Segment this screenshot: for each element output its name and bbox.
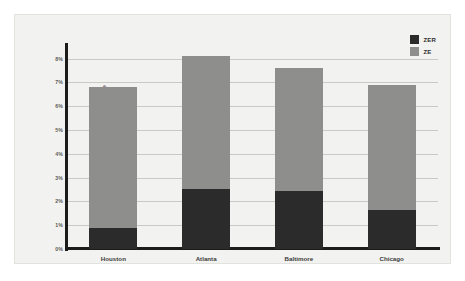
y-axis-title-wrapper: Incremental Cost Compared to Code Baseli…: [45, 49, 59, 249]
bar-group-baltimore[interactable]: [275, 49, 323, 249]
x-tick-houston: Houston: [101, 255, 126, 262]
bar-segment-zer-chicago[interactable]: [368, 210, 416, 249]
legend-item-ze[interactable]: ZE: [410, 47, 436, 56]
bar-group-chicago[interactable]: [368, 49, 416, 249]
bar-segment-zer-baltimore[interactable]: [275, 191, 323, 249]
bar-segment-ze-chicago[interactable]: [368, 85, 416, 210]
legend-item-zer[interactable]: ZER: [410, 35, 436, 44]
chart-figure: 0%1%2%3%4%5%6%7%8% Incremental Cost Comp…: [0, 0, 465, 281]
legend-label-zer: ZER: [423, 37, 436, 43]
bar-series-container: [67, 49, 438, 249]
bar-segment-zer-houston[interactable]: [89, 228, 137, 249]
bar-segment-ze-baltimore[interactable]: [275, 68, 323, 191]
bar-group-atlanta[interactable]: [182, 49, 230, 249]
x-tick-chicago: Chicago: [379, 255, 403, 262]
bar-segment-ze-atlanta[interactable]: [182, 56, 230, 189]
bar-segment-zer-atlanta[interactable]: [182, 189, 230, 249]
legend-swatch-ze: [410, 47, 419, 56]
chart-frame: 0%1%2%3%4%5%6%7%8% Incremental Cost Comp…: [14, 14, 451, 264]
chart-legend: ZERZE: [410, 35, 436, 56]
legend-label-ze: ZE: [423, 49, 431, 55]
x-axis-tick-labels: HoustonAtlantaBaltimoreChicago: [67, 255, 438, 269]
legend-swatch-zer: [410, 35, 419, 44]
bar-segment-ze-houston[interactable]: [89, 87, 137, 227]
x-tick-baltimore: Baltimore: [285, 255, 314, 262]
x-tick-atlanta: Atlanta: [196, 255, 217, 262]
bar-group-houston[interactable]: [89, 49, 137, 249]
